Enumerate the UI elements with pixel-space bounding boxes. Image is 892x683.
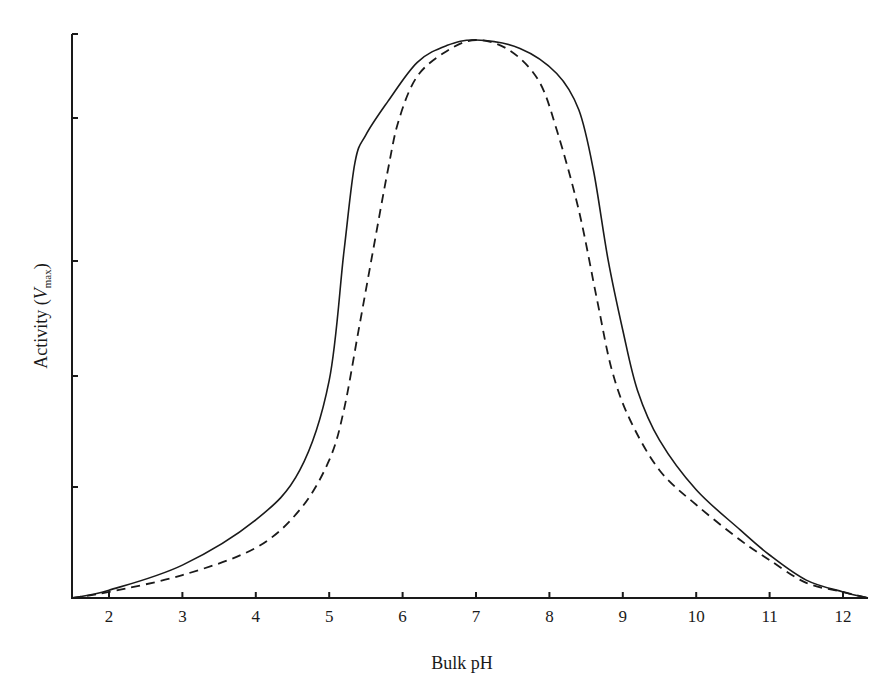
x-tick-label: 8	[545, 607, 554, 626]
x-tick-label: 3	[178, 607, 187, 626]
x-tick-label: 12	[835, 607, 852, 626]
x-tick-labels: 23456789101112	[105, 607, 852, 626]
y-axis-title-main: Activity (	[31, 299, 52, 369]
y-axis-title-sub: max	[41, 269, 53, 288]
x-axis-title: Bulk pH	[431, 653, 493, 673]
dashed-curve	[72, 40, 868, 598]
x-tick-label: 11	[761, 607, 777, 626]
x-tick-label: 9	[619, 607, 628, 626]
x-tick-label: 4	[252, 607, 261, 626]
ph-activity-chart: 23456789101112 Bulk pH Activity (Vmax)	[0, 0, 892, 683]
y-axis-title-close: )	[31, 263, 52, 269]
x-tick-label: 7	[472, 607, 481, 626]
x-tick-label: 2	[105, 607, 114, 626]
series-group	[72, 40, 868, 598]
solid-curve	[72, 40, 868, 598]
x-tick-label: 5	[325, 607, 334, 626]
x-tick-label: 6	[398, 607, 407, 626]
x-tick-label: 10	[688, 607, 705, 626]
axes	[71, 34, 868, 599]
y-axis-title: Activity (Vmax)	[31, 263, 53, 368]
